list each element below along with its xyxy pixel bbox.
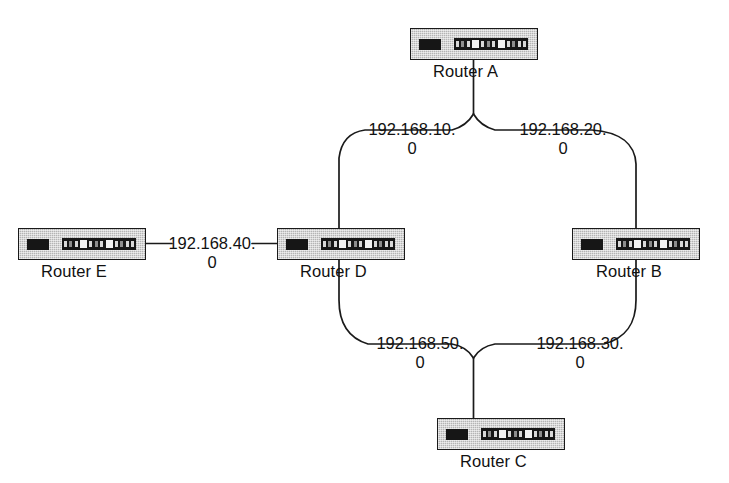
router-power-block-icon: [419, 39, 441, 50]
network-label-192-168-30-0: 192.168.30. 0: [530, 334, 630, 373]
network-label-line1: 192.168.30.: [536, 334, 623, 352]
router-icon-router-a[interactable]: [410, 28, 538, 60]
router-faceplate: [22, 232, 142, 256]
network-label-line1: 192.168.50.: [376, 334, 463, 352]
router-port-strip-icon: [62, 238, 136, 250]
router-faceplate: [576, 232, 696, 256]
network-diagram-canvas: Router A Router E Router D Router B: [0, 0, 729, 483]
network-label-line2: 0: [530, 353, 630, 372]
network-label-line1: 192.168.10.: [368, 120, 455, 138]
router-a-label: Router A: [433, 62, 498, 81]
router-e-label: Router E: [41, 262, 107, 281]
router-icon-router-e[interactable]: [18, 228, 146, 260]
router-icon-router-d[interactable]: [277, 228, 405, 260]
network-label-line1: 192.168.20.: [519, 120, 606, 138]
router-port-strip-icon: [481, 428, 555, 440]
router-port-strip-icon: [616, 238, 690, 250]
network-label-192-168-10-0: 192.168.10. 0: [362, 120, 462, 159]
router-port-strip-icon: [321, 238, 395, 250]
router-power-block-icon: [446, 429, 468, 440]
network-label-192-168-40-0: 192.168.40. 0: [162, 234, 262, 273]
network-label-line2: 0: [513, 139, 613, 158]
network-label-line2: 0: [162, 253, 262, 272]
network-label-192-168-20-0: 192.168.20. 0: [513, 120, 613, 159]
network-label-192-168-50-0: 192.168.50. 0: [370, 334, 470, 373]
router-power-block-icon: [27, 239, 49, 250]
router-b-label: Router B: [596, 262, 662, 281]
router-faceplate: [281, 232, 401, 256]
router-icon-router-c[interactable]: [437, 418, 565, 450]
router-c-label: Router C: [460, 452, 527, 471]
router-d-label: Router D: [300, 262, 367, 281]
network-label-line2: 0: [362, 139, 462, 158]
router-icon-router-b[interactable]: [572, 228, 700, 260]
router-power-block-icon: [581, 239, 603, 250]
router-power-block-icon: [286, 239, 308, 250]
router-faceplate: [441, 422, 561, 446]
network-label-line1: 192.168.40.: [168, 234, 255, 252]
network-label-line2: 0: [370, 353, 470, 372]
router-port-strip-icon: [454, 38, 528, 50]
router-faceplate: [414, 32, 534, 56]
